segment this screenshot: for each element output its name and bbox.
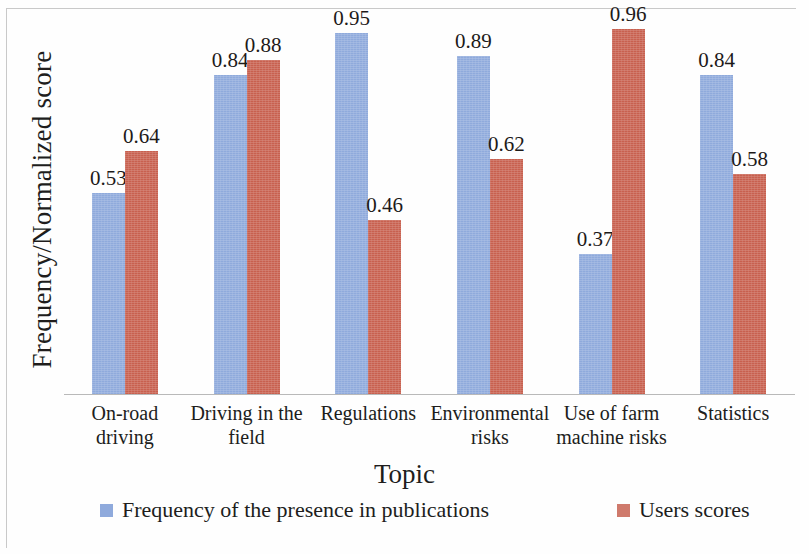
bar-value-label: 0.53 — [90, 168, 127, 189]
x-tick-label-line: On-road — [64, 402, 186, 426]
bar-column: 0.84 — [700, 14, 733, 395]
y-axis-title: Frequency/Normalized score — [29, 10, 56, 410]
bar-group: 0.530.64 — [92, 14, 158, 395]
bar-column: 0.46 — [368, 14, 401, 395]
bar-value-label: 0.64 — [123, 126, 160, 147]
x-tick-label-line: field — [186, 426, 308, 450]
x-tick-label-line: Statistics — [672, 402, 794, 426]
grouped-bar-chart: Frequency/Normalized score 0.530.640.840… — [0, 0, 809, 554]
bar-column: 0.96 — [612, 14, 645, 395]
bar-column: 0.88 — [247, 14, 280, 395]
bar-value-label: 0.96 — [610, 4, 647, 25]
bar-group: 0.840.58 — [700, 14, 766, 395]
bar-series-b[interactable] — [247, 60, 280, 395]
bar-column: 0.62 — [490, 14, 523, 395]
bar-value-label: 0.88 — [245, 35, 282, 56]
x-tick-label-line: risks — [429, 426, 551, 450]
bar-value-label: 0.95 — [333, 8, 370, 29]
bar-column: 0.58 — [733, 14, 766, 395]
legend-label-series-b: Users scores — [639, 499, 750, 521]
bar-value-label: 0.84 — [212, 50, 249, 71]
x-tick-label-line: Driving in the — [186, 402, 308, 426]
x-tick-label-line: driving — [64, 426, 186, 450]
bar-value-label: 0.37 — [577, 229, 614, 250]
bar-column: 0.95 — [335, 14, 368, 395]
chart-page: Frequency/Normalized score 0.530.640.840… — [0, 0, 809, 554]
x-tick-label-line: Use of farm — [551, 402, 673, 426]
plot-area: 0.530.640.840.880.950.460.890.620.370.96… — [64, 14, 794, 395]
chart-legend: Frequency of the presence in publication… — [0, 499, 809, 529]
legend-item-users-scores[interactable]: Users scores — [617, 499, 750, 521]
bar-series-a[interactable] — [335, 33, 368, 395]
bar-value-label: 0.84 — [698, 50, 735, 71]
bar-group: 0.840.88 — [214, 14, 280, 395]
x-tick-label-line: Environmental — [429, 402, 551, 426]
bar-group: 0.950.46 — [335, 14, 401, 395]
bar-series-a[interactable] — [579, 254, 612, 395]
x-tick-label: Driving in thefield — [186, 402, 308, 449]
bar-column: 0.53 — [92, 14, 125, 395]
bar-value-label: 0.89 — [455, 31, 492, 52]
bar-column: 0.37 — [579, 14, 612, 395]
bar-value-label: 0.58 — [731, 149, 768, 170]
bar-value-label: 0.62 — [488, 134, 525, 155]
x-tick-label: Environmentalrisks — [429, 402, 551, 449]
bar-series-b[interactable] — [125, 151, 158, 395]
bar-value-label: 0.46 — [366, 195, 403, 216]
x-tick-label: On-roaddriving — [64, 402, 186, 449]
bar-group: 0.890.62 — [457, 14, 523, 395]
x-tick-label: Regulations — [307, 402, 429, 426]
x-tick-label: Statistics — [672, 402, 794, 426]
x-axis-line — [64, 394, 795, 395]
x-tick-label-line: machine risks — [551, 426, 673, 450]
bar-column: 0.84 — [214, 14, 247, 395]
x-axis-title: Topic — [0, 461, 809, 488]
legend-swatch-icon-series-a — [100, 504, 113, 517]
bar-series-b[interactable] — [368, 220, 401, 395]
bar-column: 0.89 — [457, 14, 490, 395]
bar-series-b[interactable] — [490, 159, 523, 395]
bar-series-b[interactable] — [733, 174, 766, 395]
legend-swatch-icon-series-b — [617, 504, 630, 517]
legend-item-frequency[interactable]: Frequency of the presence in publication… — [100, 499, 489, 521]
legend-label-series-a: Frequency of the presence in publication… — [122, 499, 489, 521]
bar-column: 0.64 — [125, 14, 158, 395]
bar-series-a[interactable] — [700, 75, 733, 395]
x-tick-label-line: Regulations — [307, 402, 429, 426]
bar-series-a[interactable] — [92, 193, 125, 395]
bar-series-b[interactable] — [612, 29, 645, 395]
x-tick-label: Use of farmmachine risks — [551, 402, 673, 449]
bar-series-a[interactable] — [457, 56, 490, 395]
bar-group: 0.370.96 — [579, 14, 645, 395]
bar-series-a[interactable] — [214, 75, 247, 395]
